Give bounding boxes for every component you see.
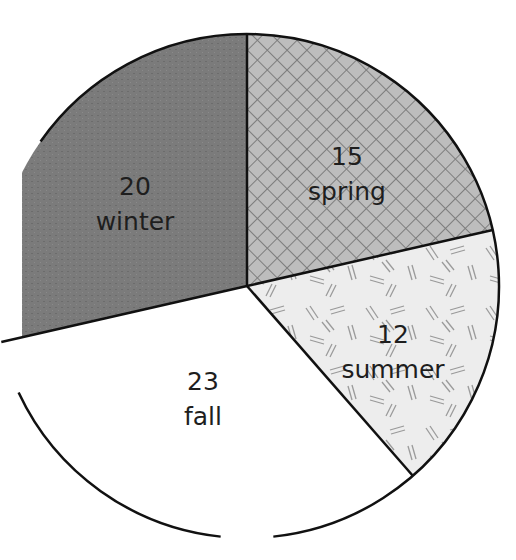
- pie-chart: 15spring12summer23fall20winter: [0, 0, 516, 560]
- slice-label-spring: spring: [308, 177, 386, 206]
- slice-label-winter: winter: [96, 207, 175, 236]
- slice-label-fall: fall: [184, 402, 222, 431]
- slice-value-summer: 12: [377, 320, 409, 349]
- slice-label-summer: summer: [341, 355, 445, 384]
- slice-value-winter: 20: [119, 172, 151, 201]
- slice-value-spring: 15: [331, 142, 363, 171]
- slice-value-fall: 23: [187, 367, 219, 396]
